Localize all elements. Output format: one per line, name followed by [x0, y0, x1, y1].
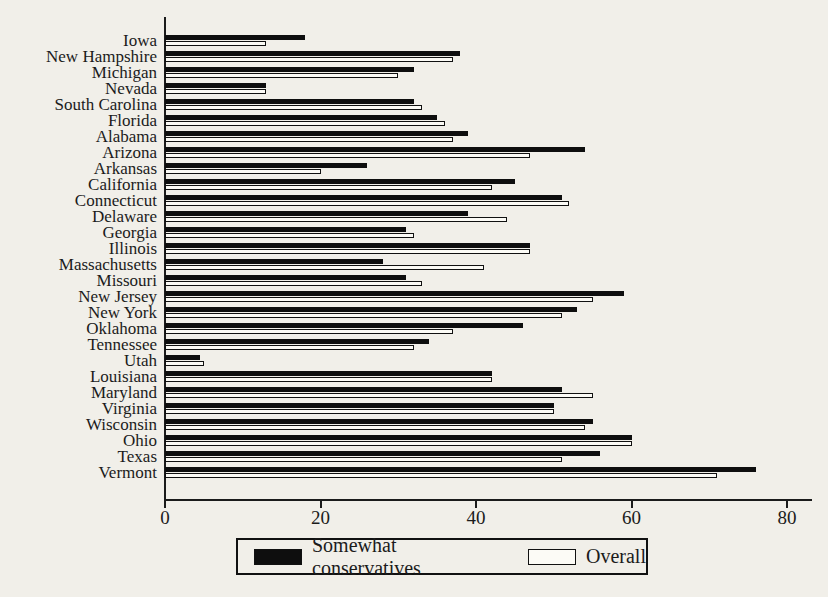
bar-group [165, 353, 828, 366]
bar-group [165, 257, 828, 270]
y-axis-label: Louisiana [0, 369, 165, 384]
bar-somewhat-conservatives [165, 323, 523, 328]
bar-overall [165, 73, 398, 78]
bar-group [165, 97, 828, 110]
x-axis-line [164, 499, 812, 501]
bar-somewhat-conservatives [165, 99, 414, 104]
bar-overall [165, 345, 414, 350]
x-axis-tick-label: 80 [755, 507, 819, 529]
bar-somewhat-conservatives [165, 339, 429, 344]
legend: Somewhat conservatives Overall [236, 538, 648, 575]
bar-somewhat-conservatives [165, 419, 593, 424]
bar-somewhat-conservatives [165, 115, 437, 120]
bar-somewhat-conservatives [165, 163, 367, 168]
bar-somewhat-conservatives [165, 51, 460, 56]
bar-somewhat-conservatives [165, 35, 305, 40]
bar-overall [165, 41, 266, 46]
y-axis-label: Arkansas [0, 161, 165, 176]
y-axis-label: Illinois [0, 241, 165, 256]
bar-somewhat-conservatives [165, 211, 468, 216]
chart-row: Vermont [0, 465, 828, 481]
y-axis-label: Texas [0, 449, 165, 464]
bar-overall [165, 313, 562, 318]
bar-overall [165, 217, 507, 222]
y-axis-label: Arizona [0, 145, 165, 160]
bar-group [165, 449, 828, 462]
bar-overall [165, 233, 414, 238]
x-axis-tick-label: 60 [600, 507, 664, 529]
bar-group [165, 289, 828, 302]
bar-group [165, 129, 828, 142]
y-axis-label: Maryland [0, 385, 165, 400]
bar-somewhat-conservatives [165, 227, 406, 232]
bar-group [165, 273, 828, 286]
bar-overall [165, 457, 562, 462]
y-axis-label: Massachusetts [0, 257, 165, 272]
bar-somewhat-conservatives [165, 131, 468, 136]
bar-group [165, 241, 828, 254]
y-axis-label: Georgia [0, 225, 165, 240]
bar-group [165, 193, 828, 206]
bar-group [165, 145, 828, 158]
bar-overall [165, 249, 530, 254]
bar-group [165, 321, 828, 334]
y-axis-label: New Jersey [0, 289, 165, 304]
bar-overall [165, 169, 321, 174]
bar-overall [165, 121, 445, 126]
bar-group [165, 305, 828, 318]
bar-somewhat-conservatives [165, 195, 562, 200]
bar-somewhat-conservatives [165, 387, 562, 392]
legend-label-somewhat-conservatives: Somewhat conservatives [312, 534, 478, 580]
y-axis-label: Iowa [0, 33, 165, 48]
y-axis-label: South Carolina [0, 97, 165, 112]
bar-overall [165, 297, 593, 302]
bar-somewhat-conservatives [165, 275, 406, 280]
bar-group [165, 81, 828, 94]
legend-label-overall: Overall [586, 545, 646, 568]
bar-somewhat-conservatives [165, 307, 577, 312]
y-axis-label: Ohio [0, 433, 165, 448]
bar-group [165, 337, 828, 350]
bar-group [165, 417, 828, 430]
y-axis-label: Connecticut [0, 193, 165, 208]
bar-somewhat-conservatives [165, 147, 585, 152]
bar-overall [165, 265, 484, 270]
y-axis-label: Vermont [0, 465, 165, 480]
bar-somewhat-conservatives [165, 243, 530, 248]
bar-overall [165, 185, 492, 190]
bar-overall [165, 137, 453, 142]
bar-group [165, 433, 828, 446]
bar-group [165, 49, 828, 62]
bar-overall [165, 473, 717, 478]
bar-group [165, 465, 828, 478]
y-axis-label: Oklahoma [0, 321, 165, 336]
bar-somewhat-conservatives [165, 467, 756, 472]
bar-overall [165, 409, 554, 414]
bar-overall [165, 441, 632, 446]
bar-overall [165, 57, 453, 62]
bar-group [165, 33, 828, 46]
bar-overall [165, 361, 204, 366]
bar-overall [165, 425, 585, 430]
bar-overall [165, 329, 453, 334]
bar-group [165, 209, 828, 222]
y-axis-label: Tennessee [0, 337, 165, 352]
bar-group [165, 113, 828, 126]
bar-somewhat-conservatives [165, 435, 632, 440]
bar-somewhat-conservatives [165, 403, 554, 408]
bar-overall [165, 89, 266, 94]
y-axis-label: Wisconsin [0, 417, 165, 432]
x-axis-tick-label: 0 [133, 507, 197, 529]
bar-chart-figure: IowaNew HampshireMichiganNevadaSouth Car… [0, 0, 828, 597]
bar-somewhat-conservatives [165, 371, 492, 376]
bar-somewhat-conservatives [165, 291, 624, 296]
bar-somewhat-conservatives [165, 355, 200, 360]
legend-swatch-overall [528, 549, 576, 565]
bar-overall [165, 393, 593, 398]
chart-rows: IowaNew HampshireMichiganNevadaSouth Car… [0, 33, 828, 481]
x-axis-tick-label: 40 [444, 507, 508, 529]
y-axis-label: Virginia [0, 401, 165, 416]
bar-somewhat-conservatives [165, 259, 383, 264]
bar-group [165, 161, 828, 174]
bar-group [165, 369, 828, 382]
